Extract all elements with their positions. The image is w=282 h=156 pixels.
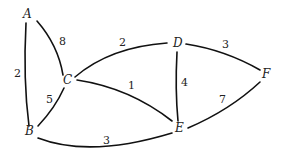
node-f: F [261, 67, 271, 81]
weight-label-d-e: 4 [181, 76, 188, 89]
edge-a-c [37, 21, 63, 75]
weighted-graph-diagram: 2 8 5 2 1 4 3 7 3 A B C D E F [0, 0, 282, 156]
node-e: E [174, 121, 184, 135]
weight-label-e-f: 7 [219, 93, 226, 106]
edge-a-b [25, 23, 29, 126]
weight-label-b-e: 3 [103, 134, 110, 147]
edge-d-e [176, 52, 178, 121]
weight-label-d-f: 3 [222, 38, 229, 51]
weight-label-c-d: 2 [119, 36, 126, 49]
node-c: C [63, 73, 72, 87]
weight-label-c-b: 5 [46, 93, 53, 106]
node-d: D [172, 36, 183, 50]
node-a: A [22, 7, 32, 21]
node-b: B [24, 124, 34, 138]
weight-label-a-c: 8 [59, 35, 66, 48]
weight-label-a-b: 2 [14, 67, 21, 80]
edge-c-e [77, 80, 172, 121]
weight-label-c-e: 1 [128, 79, 135, 92]
